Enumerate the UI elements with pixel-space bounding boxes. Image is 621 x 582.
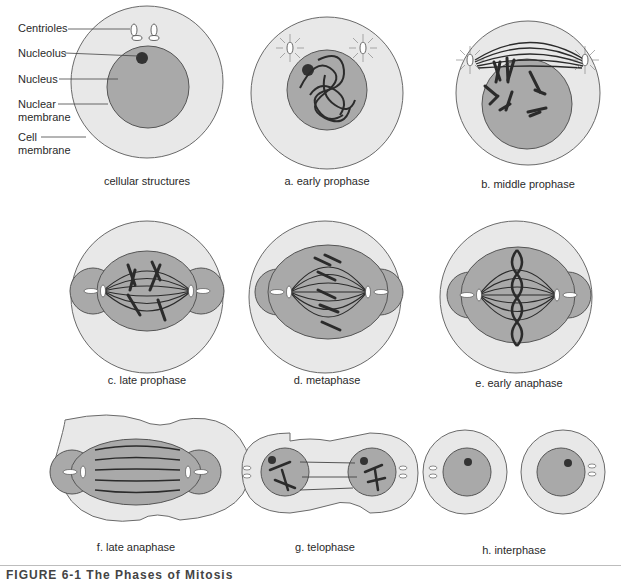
cell-late-anaphase <box>50 415 250 521</box>
caption-middle-prophase: b. middle prophase <box>428 178 621 190</box>
caption-late-prophase: c. late prophase <box>47 374 247 386</box>
cell-early-prophase <box>251 17 403 169</box>
cell-cellular-structures <box>41 6 223 158</box>
cell-metaphase <box>249 221 403 373</box>
label-nucleus: Nucleus <box>18 73 58 86</box>
label-cell-membrane-line1: Cell <box>18 131 37 144</box>
cell-interphase <box>423 430 605 514</box>
caption-cellular-structures: cellular structures <box>47 175 247 187</box>
cell-telophase <box>242 433 418 513</box>
caption-interphase: h. interphase <box>414 544 614 556</box>
caption-late-anaphase: f. late anaphase <box>36 541 236 553</box>
caption-early-prophase: a. early prophase <box>227 175 427 187</box>
label-nuclear-membrane-line2: membrane <box>18 111 71 124</box>
cell-middle-prophase <box>456 21 600 165</box>
caption-telophase: g. telophase <box>225 541 425 553</box>
label-cell-membrane-line2: membrane <box>18 144 71 157</box>
label-nucleolus: Nucleolus <box>18 47 66 60</box>
caption-divider <box>0 565 621 566</box>
centriole-shape <box>131 24 137 36</box>
cell-late-prophase <box>70 221 224 373</box>
figure-caption: FIGURE 6-1 The Phases of Mitosis <box>6 568 233 582</box>
nucleolus-shape <box>136 52 148 64</box>
caption-early-anaphase: e. early anaphase <box>419 377 619 389</box>
caption-metaphase: d. metaphase <box>227 374 427 386</box>
cell-early-anaphase <box>440 221 592 373</box>
label-nuclear-membrane-line1: Nuclear <box>18 98 56 111</box>
label-centrioles: Centrioles <box>18 22 68 35</box>
